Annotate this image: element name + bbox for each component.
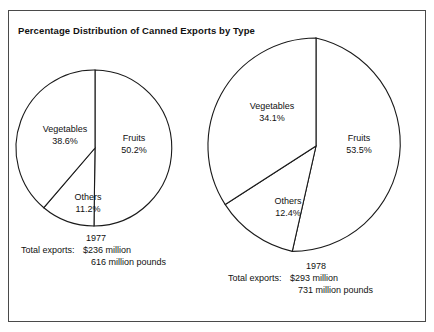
pie-1977-vegetables-value: 38.6% xyxy=(52,136,78,146)
pie-1977-label-others: Others 11.2% xyxy=(62,192,114,215)
pie-1977-totals-label: Total exports: xyxy=(21,245,75,255)
pie-1977-caption: 1977 Total exports: $236 million 616 mil… xyxy=(21,232,181,268)
pie-1978-vegetables-name: Vegetables xyxy=(250,101,295,111)
pie-1978-fruits-name: Fruits xyxy=(348,133,371,143)
pie-1978-fruits-value: 53.5% xyxy=(346,145,372,155)
pie-1978-totals-label: Total exports: xyxy=(228,273,282,283)
pie-1977-others-value: 11.2% xyxy=(76,204,101,214)
pie-1977-vegetables-name: Vegetables xyxy=(43,124,88,134)
pie-1977-total-pounds: 616 million pounds xyxy=(21,256,181,268)
pie-1977-label-vegetables: Vegetables 38.6% xyxy=(30,124,100,147)
pie-1977-others-name: Others xyxy=(74,192,101,202)
pie-1978-label-others: Others 12.4% xyxy=(262,196,314,219)
figure-canvas: Percentage Distribution of Canned Export… xyxy=(0,0,434,332)
pie-1977-year-label: 1977 xyxy=(21,232,171,244)
pie-1978-total-pounds: 731 million pounds xyxy=(228,284,418,296)
pie-1978-others-value: 12.4% xyxy=(275,208,301,218)
pie-1978-caption: 1978 Total exports: $293 million 731 mil… xyxy=(228,260,418,296)
pie-1978-others-name: Others xyxy=(274,196,301,206)
pie-1978-total-dollars: $293 million xyxy=(290,273,338,283)
pie-1978-label-fruits: Fruits 53.5% xyxy=(333,133,385,156)
pie-1977-label-fruits: Fruits 50.2% xyxy=(108,133,160,156)
pie-1977-fruits-name: Fruits xyxy=(123,133,146,143)
pie-1978-vegetables-value: 34.1% xyxy=(259,113,285,123)
pie-1977-total-dollars: $236 million xyxy=(83,245,131,255)
pie-1978-year-label: 1978 xyxy=(228,260,404,272)
pie-1978-label-vegetables: Vegetables 34.1% xyxy=(237,101,307,124)
pie-1977-fruits-value: 50.2% xyxy=(121,145,147,155)
